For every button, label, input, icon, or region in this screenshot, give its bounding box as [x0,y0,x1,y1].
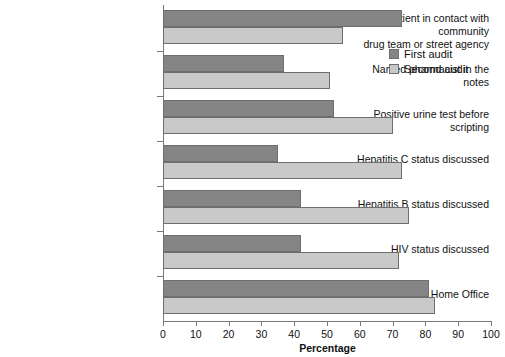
x-axis-tick-label: 90 [443,328,473,340]
bar-first-audit-3 [163,145,278,162]
legend-label-first-audit: First audit [404,48,452,60]
bar-first-audit-4 [163,190,301,207]
x-axis-tick-label: 20 [214,328,244,340]
bar-first-audit-2 [163,100,334,117]
x-axis-title: Percentage [163,342,492,354]
legend-swatch-icon-first-audit [389,49,399,59]
x-axis-tick-label: 80 [410,328,440,340]
x-axis-tick [458,321,459,326]
bar-first-audit-1 [163,55,284,72]
x-axis-tick [229,321,230,326]
x-axis-tick [294,321,295,326]
x-axis-tick [196,321,197,326]
bar-second-audit-4 [163,207,409,224]
x-axis-tick [360,321,361,326]
x-axis-tick [261,321,262,326]
bar-second-audit-6 [163,297,435,314]
bar-second-audit-1 [163,72,330,89]
x-axis-tick-label: 70 [378,328,408,340]
chart-legend: First audit Second audit [389,46,468,76]
bar-first-audit-5 [163,235,301,252]
x-axis-tick-label: 100 [476,328,505,340]
bar-second-audit-3 [163,162,402,179]
x-axis-tick [425,321,426,326]
bar-first-audit-0 [163,10,402,27]
x-axis-tick [393,321,394,326]
x-axis-tick-label: 10 [181,328,211,340]
x-axis-tick [327,321,328,326]
legend-swatch-icon-second-audit [389,64,399,74]
bar-second-audit-2 [163,117,393,134]
bar-first-audit-6 [163,280,429,297]
x-axis-tick-label: 30 [246,328,276,340]
x-axis-tick-label: 40 [279,328,309,340]
x-axis-tick [163,321,164,326]
x-axis-tick-label: 0 [148,328,178,340]
legend-item-first-audit: First audit [389,46,468,61]
x-axis-tick [491,321,492,326]
x-axis-tick-label: 60 [345,328,375,340]
legend-item-second-audit: Second audit [389,61,468,76]
bar-second-audit-5 [163,252,399,269]
bar-second-audit-0 [163,27,343,44]
x-axis-tick-label: 50 [312,328,342,340]
legend-label-second-audit: Second audit [404,63,468,75]
